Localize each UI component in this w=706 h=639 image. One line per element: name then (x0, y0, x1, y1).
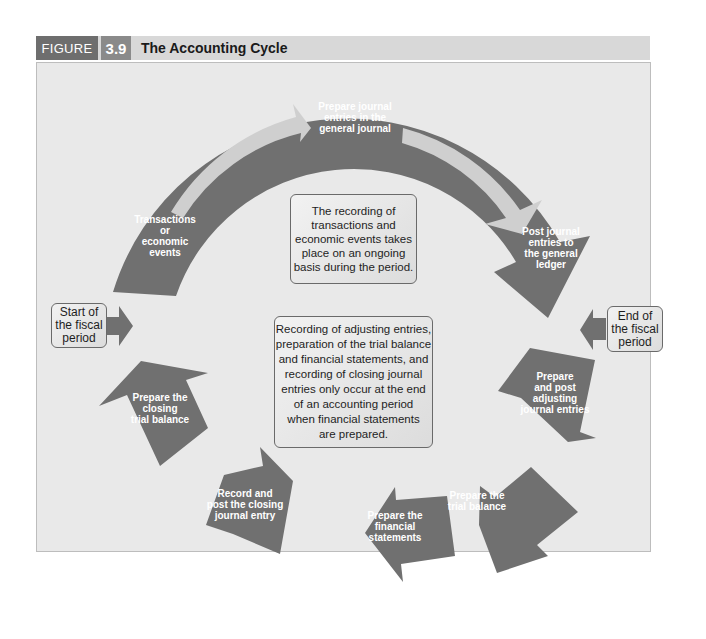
trial-balance-arrow (479, 467, 578, 573)
start-arrow (106, 306, 133, 346)
ongoing-recording-note: The recording of transactions and econom… (290, 194, 417, 284)
label-closing-entry: Record and post the closing journal entr… (205, 488, 285, 521)
end-arrow (580, 309, 606, 350)
start-of-fiscal-period-box: Start of the fiscal period (51, 303, 107, 348)
end-of-period-note: Recording of adjusting entries, preparat… (274, 316, 433, 448)
label-financial-statements: Prepare the financial statements (360, 510, 430, 543)
label-post-ledger: Post journal entries to the general ledg… (516, 226, 586, 270)
end-of-fiscal-period-box: End of the fiscal period (607, 306, 663, 352)
label-journal-entries: Prepare journal entries in the general j… (310, 101, 400, 134)
label-closing-trial-balance: Prepare the closing trial balance (125, 392, 195, 425)
label-adjusting: Prepare and post adjusting journal entri… (515, 371, 595, 415)
label-transactions: Transactions or economic events (130, 214, 200, 258)
label-trial-balance: Prepare the trial balance (442, 490, 512, 512)
